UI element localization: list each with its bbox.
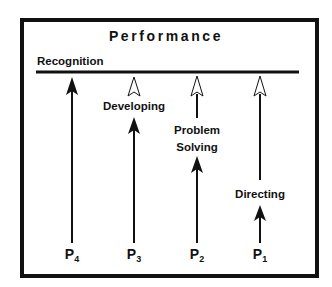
p1-arrow	[254, 76, 266, 243]
stage-label-line: Problem	[174, 122, 220, 139]
hollow-arrowhead-icon	[191, 76, 203, 96]
arrows-diagram	[0, 0, 332, 287]
hollow-arrowhead-icon	[254, 76, 266, 96]
p4-label: P4	[65, 246, 79, 268]
hollow-arrowhead-icon	[128, 77, 140, 96]
p-subscript: 2	[199, 254, 204, 264]
p-subscript: 3	[136, 254, 141, 264]
p2-arrow	[191, 76, 203, 243]
p-letter: P	[65, 246, 74, 262]
p2-label: P2	[190, 246, 204, 268]
stage-label-line: Solving	[174, 139, 220, 156]
p-subscript: 1	[262, 254, 267, 264]
stage-label-directing: Directing	[235, 186, 285, 203]
p1-label: P1	[253, 246, 267, 268]
p3-label: P3	[127, 246, 141, 268]
p-letter: P	[127, 246, 136, 262]
p4-arrow	[66, 77, 78, 243]
p-letter: P	[190, 246, 199, 262]
stage-label-developing: Developing	[103, 98, 165, 115]
p-letter: P	[253, 246, 262, 262]
stage-label-problem-solving: Problem Solving	[174, 122, 220, 156]
p-subscript: 4	[74, 254, 79, 264]
